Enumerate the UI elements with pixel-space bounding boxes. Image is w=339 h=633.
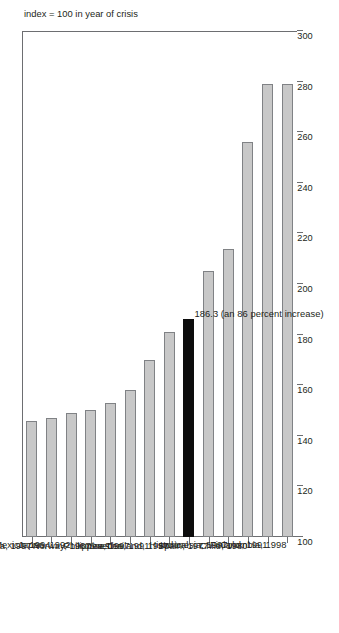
bar-malaysia-1997 xyxy=(26,421,37,537)
bar-row xyxy=(105,31,116,537)
value-tick-label: 260 xyxy=(297,132,313,142)
bar-row xyxy=(203,31,214,537)
bar-norway-1987 xyxy=(85,411,96,538)
value-axis-title: index = 100 in year of crisis xyxy=(24,8,138,19)
category-tick xyxy=(287,537,288,543)
bar-thailand-1997 xyxy=(164,332,175,537)
bar-sweden-1991 xyxy=(144,360,155,537)
bar-row xyxy=(66,31,77,537)
value-tick-label: 280 xyxy=(297,82,313,92)
bar-row xyxy=(46,31,57,537)
bar-indonesia-1997 xyxy=(223,249,234,537)
bars-layer xyxy=(22,31,297,537)
bar-historical xyxy=(183,319,194,537)
bar-row xyxy=(262,31,273,537)
chart-figure: 100120140160180200220240260280300 Malays… xyxy=(0,0,339,633)
value-tick-label: 300 xyxy=(297,31,313,41)
bar-row xyxy=(242,31,253,537)
bar-philippines xyxy=(105,403,116,537)
bar-row xyxy=(125,31,136,537)
value-tick-label: 200 xyxy=(297,284,313,294)
bar-row xyxy=(26,31,37,537)
value-tick-label: 140 xyxy=(297,436,313,446)
value-tick-label: 160 xyxy=(297,385,313,395)
value-tick-label: 100 xyxy=(297,537,313,547)
bar-mexico-1994 xyxy=(46,418,57,537)
bar-row xyxy=(223,31,234,537)
bar-row xyxy=(183,31,194,537)
value-tick-label: 120 xyxy=(297,486,313,496)
bar-korea-1997 xyxy=(125,390,136,537)
bar-row xyxy=(144,31,155,537)
bar-japan-1992 xyxy=(66,413,77,537)
bar-row xyxy=(164,31,175,537)
value-tick-label: 240 xyxy=(297,183,313,193)
bar-chile-1980 xyxy=(242,142,253,537)
value-tick-label: 220 xyxy=(297,233,313,243)
historical-value-annotation: 186.3 (an 86 percent increase) xyxy=(194,307,323,318)
value-tick-label: 180 xyxy=(297,335,313,345)
category-label: Colombia, 1998 xyxy=(220,540,286,551)
bar-row xyxy=(282,31,293,537)
bar-row xyxy=(85,31,96,537)
chart-rotated-canvas: 100120140160180200220240260280300 Malays… xyxy=(0,0,339,633)
